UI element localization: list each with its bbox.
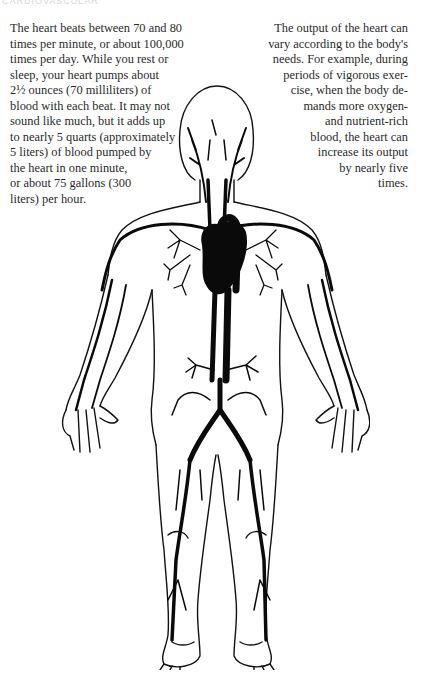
page-header-fragment: CARDIOVASCULAR	[2, 0, 99, 6]
text-line: vary according to the body's	[233, 37, 408, 53]
text-line: The heart beats between 70 and 80	[10, 21, 210, 37]
body-outline	[63, 86, 370, 667]
text-line: times per minute, or about 100,000	[10, 37, 210, 53]
text-line: needs. For example, during	[233, 52, 408, 68]
text-line: The output of the heart can	[233, 21, 408, 37]
blood-vessels	[76, 120, 358, 640]
text-line: times per day. While you rest or	[10, 52, 210, 68]
circulatory-system-illustration	[60, 80, 370, 670]
